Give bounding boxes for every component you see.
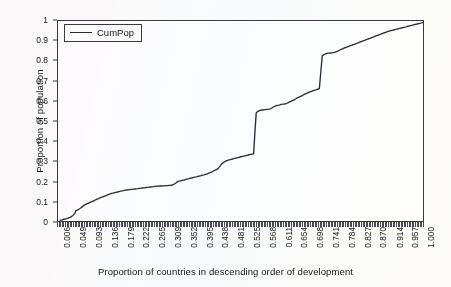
y-tick-label: 0.8 [36,56,48,65]
y-tick-label: 0.3 [36,157,48,166]
x-tick-label: 1.000 [427,227,435,248]
x-tick-label: 0.870 [379,227,387,248]
y-axis-ticklabels: 10.90.80.70.60.50.40.30.20.10 [0,0,57,242]
x-tick-label: 0.352 [190,227,198,248]
x-tick-label: 0.395 [206,227,214,248]
x-tick-label: 0.309 [174,227,182,248]
x-tick-label: 0.006 [63,227,71,248]
x-tick-label: 0.525 [253,227,261,248]
y-tick-label: 0.1 [36,198,48,207]
x-tick-label: 0.914 [396,227,404,248]
x-tick-label: 0.957 [411,227,419,248]
cumpop-line [60,22,423,220]
x-tick-label: 0.568 [269,227,277,248]
y-tick-label: 0.9 [36,36,48,45]
x-tick-label: 0.481 [237,227,245,248]
x-tick-label: 0.698 [316,227,324,248]
y-tick-label: 0.2 [36,177,48,186]
x-axis-ticklabels: 0.0060.0490.0930.1360.1790.2220.2650.309… [57,227,424,267]
y-tick-label: 0.4 [36,137,48,146]
cumpop-curve [58,21,423,221]
chart-figure: Proportion of population 10.90.80.70.60.… [0,0,451,287]
legend-line-sample-cumpop [70,32,92,33]
y-tick-label: 0.7 [36,76,48,85]
y-tick-label: 0 [43,218,48,227]
x-tick-label: 0.827 [364,227,372,248]
x-axis-title: Proportion of countries in descending or… [0,266,451,277]
y-tick-label: 1 [43,16,48,25]
legend-label-cumpop: CumPop [97,27,134,38]
x-tick-label: 0.265 [158,227,166,248]
y-tick-label: 0.5 [36,117,48,126]
x-tick-label: 0.179 [127,227,135,248]
plot-area: CumPop [57,20,424,222]
x-tick-label: 0.654 [300,227,308,248]
x-tick-label: 0.784 [348,227,356,248]
chart-legend: CumPop [64,24,142,42]
x-tick-label: 0.093 [95,227,103,248]
x-tick-label: 0.222 [142,227,150,248]
x-tick-label: 0.741 [332,227,340,248]
y-tick-label: 0.6 [36,97,48,106]
x-tick-label: 0.611 [285,227,293,247]
x-tick-label: 0.438 [221,227,229,248]
x-tick-label: 0.136 [111,227,119,248]
x-tick-label: 0.049 [79,227,87,248]
